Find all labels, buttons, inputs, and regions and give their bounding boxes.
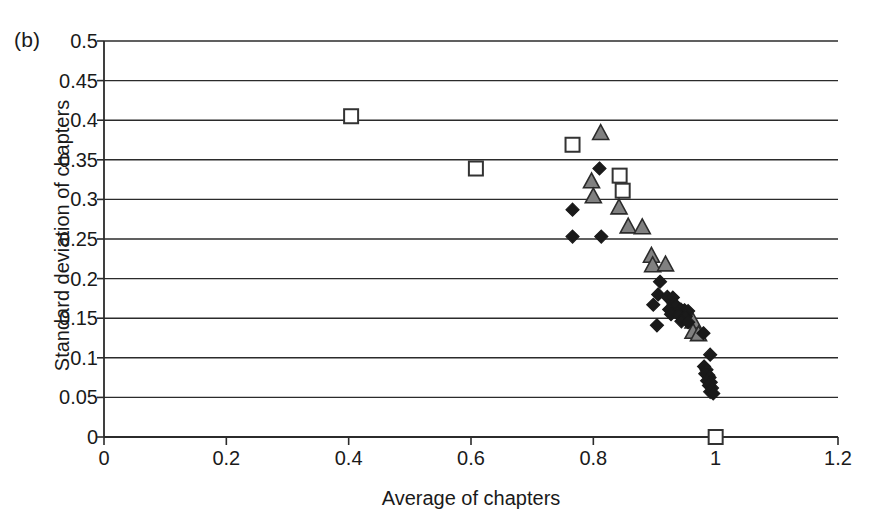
data-point-square xyxy=(613,169,627,183)
data-point-square xyxy=(616,184,630,198)
data-point-diamond xyxy=(595,230,608,243)
data-point-triangle xyxy=(658,256,674,271)
data-point-square xyxy=(469,162,483,176)
data-point-diamond xyxy=(566,203,579,216)
data-point-triangle xyxy=(593,125,609,140)
data-point-diamond xyxy=(566,230,579,243)
scatter-plot-figure: (b) Standard deviation of chapters Avera… xyxy=(0,0,883,529)
data-point-diamond xyxy=(650,319,663,332)
data-point-triangle xyxy=(585,188,601,203)
data-point-diamond xyxy=(704,348,717,361)
data-point-square xyxy=(344,109,358,123)
data-point-triangle xyxy=(620,218,636,233)
data-point-diamond xyxy=(654,275,667,288)
axes xyxy=(97,41,838,445)
data-point-diamond xyxy=(593,162,606,175)
data-point-triangle xyxy=(634,219,650,234)
data-point-triangle xyxy=(611,199,627,214)
data-point-square xyxy=(566,138,580,152)
gridlines xyxy=(104,41,838,437)
plot-canvas xyxy=(0,0,883,529)
data-point-triangle xyxy=(583,173,599,188)
data-point-square xyxy=(709,430,723,444)
